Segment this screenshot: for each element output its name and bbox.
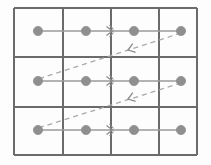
lattice-node-r1-c4	[176, 26, 185, 35]
lattice-diagram	[0, 0, 211, 165]
lattice-node-r3-c1	[33, 125, 42, 134]
diagram-canvas	[0, 0, 211, 165]
lattice-node-r2-c4	[176, 76, 185, 85]
lattice-node-r1-c3	[129, 26, 138, 35]
lattice-node-r2-c2	[81, 76, 90, 85]
lattice-node-r2-c3	[129, 76, 138, 85]
lattice-node-r3-c4	[176, 125, 185, 134]
lattice-node-r3-c2	[81, 125, 90, 134]
lattice-node-r3-c3	[129, 125, 138, 134]
lattice-node-r2-c1	[33, 76, 42, 85]
lattice-node-r1-c2	[81, 26, 90, 35]
lattice-node-r1-c1	[33, 26, 42, 35]
